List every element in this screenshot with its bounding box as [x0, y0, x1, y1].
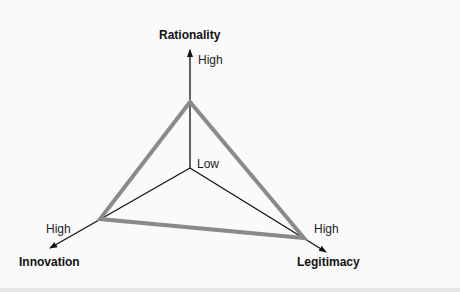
- diagram-canvas: Rationality High Innovation High Legitim…: [0, 0, 460, 288]
- high-label-rationality: High: [198, 53, 223, 67]
- axis-title-legitimacy: Legitimacy: [297, 255, 360, 269]
- high-label-legitimacy: High: [314, 222, 339, 236]
- axis-title-rationality: Rationality: [159, 28, 220, 42]
- radar-diagram: [0, 0, 460, 288]
- origin-label-low: Low: [197, 157, 219, 171]
- high-label-innovation: High: [46, 222, 71, 236]
- axis-title-innovation: Innovation: [19, 255, 80, 269]
- innovation-axis: [50, 168, 190, 248]
- bottom-band: [0, 288, 460, 292]
